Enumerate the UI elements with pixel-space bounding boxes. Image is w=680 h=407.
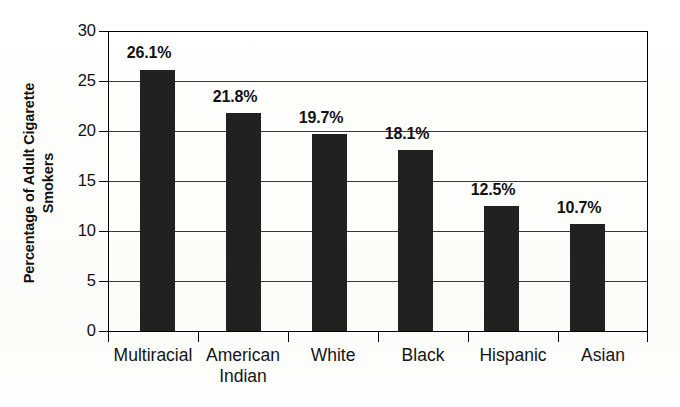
x-axis-label-asian: Asian bbox=[553, 345, 653, 366]
bar-black bbox=[398, 150, 433, 331]
bar-value-label-multiracial: 26.1% bbox=[104, 44, 194, 62]
bar-asian bbox=[570, 224, 605, 331]
x-axis-label-american-indian-line1: American bbox=[206, 345, 280, 365]
x-axis-label-white: White bbox=[283, 345, 383, 366]
y-tick-label-15: 15 bbox=[52, 171, 96, 190]
x-tick-mark-4 bbox=[468, 332, 469, 342]
bar-multiracial bbox=[140, 70, 175, 331]
x-tick-mark-5 bbox=[558, 332, 559, 342]
bar-value-label-asian: 10.7% bbox=[534, 199, 624, 217]
x-axis-label-white-line1: White bbox=[311, 345, 356, 365]
bar-value-label-white: 19.7% bbox=[276, 109, 366, 127]
x-axis-label-multiracial: Multiracial bbox=[103, 345, 203, 366]
y-tick-mark-0 bbox=[99, 331, 108, 332]
x-tick-mark-2 bbox=[288, 332, 289, 342]
x-axis-label-hispanic-line1: Hispanic bbox=[479, 345, 546, 365]
bar-white bbox=[312, 134, 347, 331]
gridline-5 bbox=[109, 281, 647, 282]
bar-value-label-black: 18.1% bbox=[362, 125, 452, 143]
x-axis-label-american-indian: American Indian bbox=[193, 345, 293, 387]
x-tick-mark-1 bbox=[198, 332, 199, 342]
bar-hispanic bbox=[484, 206, 519, 331]
gridline-15 bbox=[109, 181, 647, 182]
y-tick-mark-15 bbox=[99, 181, 108, 182]
gridline-10 bbox=[109, 231, 647, 232]
chart-page: Percentage of Adult Cigarette Smokers 30… bbox=[0, 0, 680, 407]
bar-value-label-hispanic: 12.5% bbox=[448, 181, 538, 199]
x-tick-mark-0 bbox=[108, 332, 109, 342]
y-tick-label-5: 5 bbox=[52, 271, 96, 290]
x-axis-label-asian-line1: Asian bbox=[581, 345, 625, 365]
y-tick-label-20: 20 bbox=[52, 121, 96, 140]
x-axis-label-multiracial-line1: Multiracial bbox=[114, 345, 193, 365]
bar-value-label-american-indian: 21.8% bbox=[190, 88, 280, 106]
y-tick-label-30: 30 bbox=[52, 21, 96, 40]
y-tick-mark-10 bbox=[99, 231, 108, 232]
y-tick-label-10: 10 bbox=[52, 221, 96, 240]
y-axis-title-line1: Percentage of Adult Cigarette bbox=[20, 23, 39, 343]
bar-american-indian bbox=[226, 113, 261, 331]
plot-area bbox=[108, 31, 648, 332]
y-tick-mark-25 bbox=[99, 81, 108, 82]
x-axis-label-american-indian-line2: Indian bbox=[193, 366, 293, 387]
x-tick-mark-3 bbox=[378, 332, 379, 342]
y-tick-label-25: 25 bbox=[52, 71, 96, 90]
x-axis-label-black: Black bbox=[373, 345, 473, 366]
y-tick-mark-30 bbox=[99, 31, 108, 32]
y-tick-mark-20 bbox=[99, 131, 108, 132]
x-axis-label-black-line1: Black bbox=[402, 345, 445, 365]
y-tick-mark-5 bbox=[99, 281, 108, 282]
x-tick-mark-6 bbox=[647, 332, 648, 342]
x-axis-label-hispanic: Hispanic bbox=[463, 345, 563, 366]
y-tick-label-0: 0 bbox=[52, 321, 96, 340]
gridline-25 bbox=[109, 81, 647, 82]
